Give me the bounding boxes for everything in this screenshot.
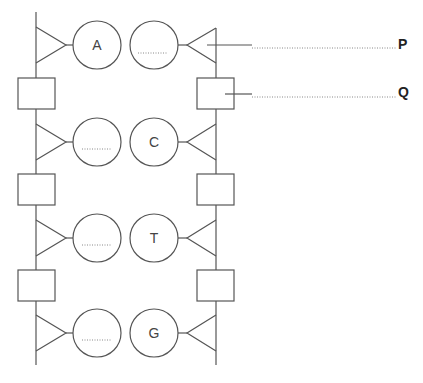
right-box-2 (197, 174, 234, 205)
right-base-4-label: G (149, 325, 160, 341)
left-triangle-2 (36, 124, 66, 160)
label-p: P (398, 36, 407, 52)
left-box-2 (18, 174, 55, 205)
right-box-3 (197, 270, 234, 301)
left-base-2 (73, 118, 121, 166)
dna-diagram: A C T G P Q (0, 0, 423, 383)
left-base-1-label: A (92, 37, 102, 53)
left-base-3 (73, 214, 121, 262)
right-triangle-3 (187, 220, 216, 256)
left-triangle-3 (36, 220, 66, 256)
left-triangle-4 (36, 315, 66, 351)
left-base-4 (73, 309, 121, 357)
right-base-3-label: T (150, 230, 159, 246)
left-box-1 (18, 78, 55, 109)
right-base-2-label: C (149, 134, 159, 150)
left-box-3 (18, 270, 55, 301)
right-base-1 (130, 21, 178, 69)
label-q: Q (398, 84, 409, 100)
left-triangle-1 (36, 27, 66, 63)
right-triangle-2 (187, 124, 216, 160)
right-triangle-4 (187, 315, 216, 351)
